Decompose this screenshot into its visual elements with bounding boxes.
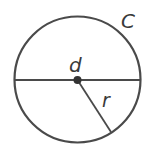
radius-label: r	[102, 89, 111, 111]
diameter-label: d	[69, 53, 82, 77]
circumference-label: C	[121, 9, 135, 33]
circle-diagram: C d r	[0, 0, 155, 155]
center-point	[74, 76, 82, 84]
